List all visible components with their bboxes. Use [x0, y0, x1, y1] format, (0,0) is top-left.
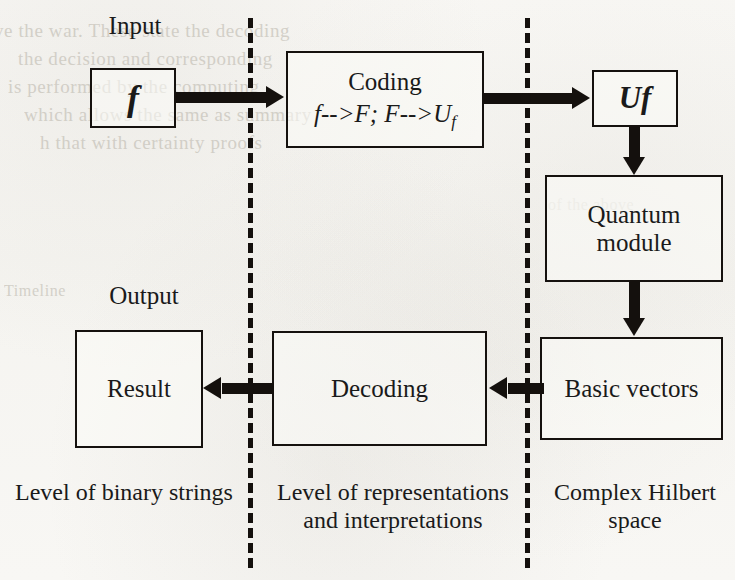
arrow-basic-to-decoding-head [489, 377, 507, 399]
arrow-coding-to-uf-head [572, 87, 590, 109]
box-quantum-module-text: Quantum module [547, 201, 721, 257]
arrow-f-to-coding-head [266, 86, 284, 108]
box-decoding-text: Decoding [331, 375, 428, 403]
box-coding-formula-subscript: f [451, 112, 456, 131]
arrow-uf-to-quantum-line [629, 126, 640, 160]
box-quantum-module[interactable]: Quantum module [545, 175, 723, 282]
ghost-text-line-2: the decision and corresponding [18, 48, 273, 70]
ghost-text-line-6: Timeline [4, 282, 66, 300]
box-basic-vectors[interactable]: Basic vectors [540, 337, 723, 440]
output-label: Output [92, 282, 196, 310]
arrow-decoding-to-result-junction [243, 383, 254, 394]
caption-level-representations: Level of representations and interpretat… [268, 478, 518, 535]
box-uf-text: Uf [619, 81, 652, 116]
caption-level-representations-line1: Level of [277, 479, 358, 505]
box-coding[interactable]: Coding f-->F; F-->Uf [286, 51, 484, 148]
box-coding-title: Coding [348, 68, 422, 96]
caption-complex-hilbert-space: Complex Hilbert space [535, 478, 735, 535]
caption-complex-hilbert-space-line2: space [608, 507, 661, 533]
arrow-quantum-to-basic-head [623, 318, 645, 336]
diagram-canvas: ve the war. These state the decoding the… [0, 0, 735, 580]
arrow-coding-to-uf-junction [520, 93, 531, 104]
arrow-quantum-to-basic-line [629, 281, 640, 319]
box-decoding[interactable]: Decoding [272, 331, 487, 446]
arrow-uf-to-quantum-head [623, 157, 645, 175]
box-input-f-text: f [127, 78, 139, 118]
input-label: Input [90, 12, 180, 40]
box-basic-vectors-text: Basic vectors [565, 375, 699, 403]
arrow-f-to-coding-junction [243, 92, 254, 103]
caption-level-binary-strings: Level of binary strings [4, 478, 244, 506]
box-result-text: Result [107, 375, 171, 403]
caption-complex-hilbert-space-line1: Complex Hilbert [554, 479, 716, 505]
arrow-decoding-to-result-head [203, 377, 221, 399]
box-result[interactable]: Result [75, 330, 203, 448]
caption-level-representations-line3: interpretations [344, 507, 483, 533]
box-uf[interactable]: Uf [592, 70, 678, 127]
ghost-text-line-5: h that with certainty proofs [40, 132, 263, 154]
arrow-basic-to-decoding-junction [520, 383, 531, 394]
box-coding-formula: f-->F; F-->Uf [314, 100, 456, 131]
box-coding-formula-main: f-->F; F-->U [314, 100, 451, 127]
box-input-f[interactable]: f [90, 68, 176, 128]
